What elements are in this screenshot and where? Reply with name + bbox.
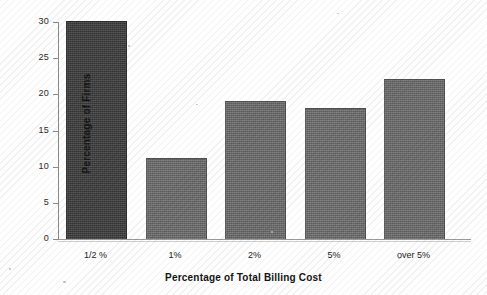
x-axis-line [58, 239, 471, 240]
y-axis-tick-label: 15 [15, 126, 49, 135]
y-axis-title: Percentage of Firms [81, 49, 92, 199]
x-axis-tick-label: over 5% [374, 250, 454, 260]
x-axis-title: Percentage of Total Billing Cost [0, 272, 487, 283]
scan-speck [128, 45, 130, 47]
bar-texture [147, 159, 206, 239]
bar-texture [67, 22, 126, 239]
plot-area [59, 22, 471, 239]
bar-chart-figure: 051015202530 1/2 %1%2%5%over 5% Percenta… [0, 0, 487, 295]
scan-speck [337, 13, 339, 14]
x-axis-tick-label: 5% [294, 250, 374, 260]
y-axis-tick-label: 5 [15, 198, 49, 207]
bar-texture [306, 109, 365, 239]
y-axis-tick-label: 10 [15, 162, 49, 171]
x-axis-tick-label: 2% [215, 250, 295, 260]
bar-texture [385, 80, 444, 239]
scan-speck [63, 281, 66, 283]
scan-speck [196, 104, 198, 105]
x-axis-baseline-shadow [58, 241, 471, 242]
y-axis-tick-label: 20 [15, 89, 49, 98]
bar-over-5- [384, 79, 445, 239]
y-axis-tick-label: 0 [15, 234, 49, 243]
bar-2- [225, 101, 286, 239]
scan-speck [271, 231, 273, 233]
scan-speck [398, 258, 400, 259]
bar-1- [146, 158, 207, 239]
y-axis-tick-label: 25 [15, 53, 49, 62]
x-axis-tick-label: 1/2 % [56, 250, 136, 260]
bar-5- [305, 108, 366, 239]
x-axis-tick-label: 1% [135, 250, 215, 260]
bar-1-2- [66, 21, 127, 239]
y-axis-ticks: 051015202530 [0, 0, 59, 295]
scan-speck [9, 268, 11, 270]
bar-texture [226, 102, 285, 239]
y-axis-tick-label: 30 [15, 17, 49, 26]
